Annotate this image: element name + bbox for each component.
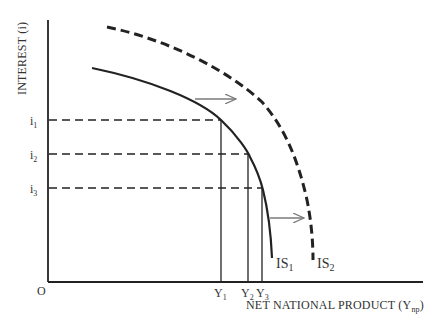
is1-label: IS1 xyxy=(276,256,293,273)
is2-label: IS2 xyxy=(317,256,334,273)
tick-i3: i3 xyxy=(30,182,37,198)
tick-i2: i2 xyxy=(30,148,37,164)
tick-y1: Y1 xyxy=(214,286,227,302)
origin-label: O xyxy=(37,284,46,298)
is-curve-diagram: INTEREST (i) O i1 i2 i3 Y1 Y2 Y3 NET NAT… xyxy=(0,0,443,323)
y-axis-label: INTEREST (i) xyxy=(15,22,29,95)
tick-i1: i1 xyxy=(30,114,37,130)
is2-curve xyxy=(107,27,313,260)
x-axis-label: NET NATIONAL PRODUCT (Ynp) xyxy=(246,298,424,314)
is1-curve xyxy=(92,68,272,258)
